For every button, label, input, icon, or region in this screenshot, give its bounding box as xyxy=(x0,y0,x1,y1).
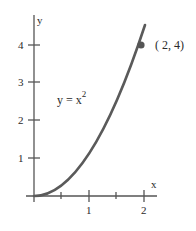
y-axis-label: y xyxy=(37,14,43,26)
x-tick-label-1: 1 xyxy=(86,204,92,216)
y-tick-label-1: 1 xyxy=(18,152,24,164)
point-marker xyxy=(137,41,144,48)
y-tick-label-4: 4 xyxy=(18,39,24,51)
parabola-curve xyxy=(34,25,145,196)
y-tick-label-3: 3 xyxy=(18,76,24,88)
point-label: ( 2, 4) xyxy=(155,38,184,52)
x-axis-label: x xyxy=(151,178,157,190)
x-tick-label-2: 2 xyxy=(141,204,147,216)
curve-label-base: y = x xyxy=(57,93,82,107)
curve-label: y = x2 xyxy=(57,89,86,107)
chart-figure: y x 4 3 2 1 1 2 y = x2 ( 2, 4) xyxy=(0,0,196,231)
axes xyxy=(26,15,157,202)
y-tick-label-2: 2 xyxy=(18,114,24,126)
curve-label-exponent: 2 xyxy=(82,89,87,99)
